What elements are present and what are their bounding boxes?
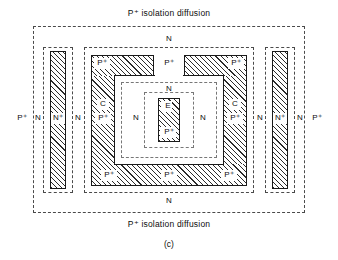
ring-outline-inner-top-right bbox=[183, 75, 224, 76]
region-label-epi-bottom: N bbox=[166, 197, 172, 205]
region-label-right-n-plus: N⁺ bbox=[275, 114, 285, 122]
region-label-isolation-left: P⁺ bbox=[17, 114, 27, 122]
region-label-left-pocket-n-inner: N bbox=[75, 114, 81, 122]
subfigure-label: (c) bbox=[164, 239, 174, 249]
region-label-emitter-p-plus: P⁺ bbox=[164, 128, 174, 136]
region-label-ring-top-right-p: P⁺ bbox=[231, 59, 241, 67]
semiconductor-cross-section-figure: P⁺ isolation diffusion N N P⁺ P⁺ N⁺ N N … bbox=[0, 0, 338, 260]
region-label-collector-left: C bbox=[100, 100, 106, 108]
region-label-ring-top-gap-p: P⁺ bbox=[164, 59, 174, 67]
ring-outline-bottom-edge bbox=[91, 185, 247, 186]
region-label-right-pocket-n-inner: N bbox=[257, 114, 263, 122]
region-label-base-n-right: N bbox=[200, 114, 206, 122]
region-label-left-pocket-n-outer: N bbox=[35, 114, 41, 122]
caption-bottom: P⁺ isolation diffusion bbox=[128, 219, 210, 229]
region-label-ring-bottom-mid-p: P⁺ bbox=[164, 171, 174, 179]
region-label-left-n-plus: N⁺ bbox=[53, 114, 63, 122]
region-label-epi-top: N bbox=[166, 35, 172, 43]
region-label-ring-right-p: P⁺ bbox=[230, 114, 240, 122]
region-label-ring-bottom-right-p: P⁺ bbox=[224, 171, 234, 179]
caption-top-text: P⁺ isolation diffusion bbox=[128, 8, 210, 18]
region-label-base-n-left: N bbox=[133, 114, 139, 122]
caption-bottom-text: P⁺ isolation diffusion bbox=[128, 219, 210, 229]
region-label-emitter: E bbox=[165, 102, 171, 110]
region-label-right-pocket-n-outer: N bbox=[297, 114, 303, 122]
region-label-ring-top-left-p: P⁺ bbox=[97, 59, 107, 67]
region-label-ring-bottom-left-p: P⁺ bbox=[104, 171, 114, 179]
region-label-ring-left-p: P⁺ bbox=[98, 114, 108, 122]
caption-top: P⁺ isolation diffusion bbox=[128, 8, 210, 18]
region-label-isolation-right: P⁺ bbox=[312, 114, 322, 122]
region-label-collector-right: C bbox=[232, 100, 238, 108]
ring-outline-inner-top-left bbox=[114, 75, 155, 76]
